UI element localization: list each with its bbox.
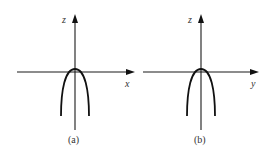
x-axis-arrow-icon xyxy=(126,69,135,75)
z-axis-arrow-icon xyxy=(198,14,204,23)
panel-a: z x (a) xyxy=(17,14,135,146)
z-label-a: z xyxy=(61,14,66,25)
z-label-b: z xyxy=(187,14,192,25)
panel-b: z y (b) xyxy=(143,14,259,146)
x-label: x xyxy=(124,78,130,89)
caption-a: (a) xyxy=(68,134,79,146)
caption-b: (b) xyxy=(194,134,206,146)
figure: z x (a) z y (b) xyxy=(0,0,275,149)
y-label: y xyxy=(250,78,256,89)
y-axis-arrow-icon xyxy=(250,69,259,75)
z-axis-arrow-icon xyxy=(72,14,78,23)
